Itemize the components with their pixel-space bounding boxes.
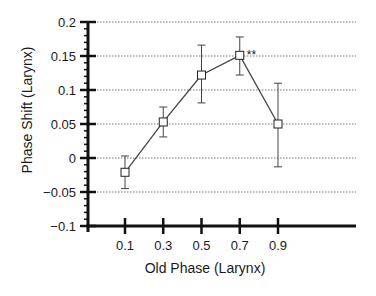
significance-annotation: **	[247, 48, 257, 62]
x-tick-label: 0.7	[231, 238, 249, 253]
x-tick-label: 0.9	[269, 238, 287, 253]
y-tick-label: 0.05	[51, 117, 76, 132]
y-tick-label: −0.1	[50, 219, 76, 234]
x-axis-ticks: 0.10.30.50.70.9	[116, 218, 287, 253]
gridlines	[88, 22, 356, 192]
y-tick-label: 0.2	[58, 15, 76, 30]
x-tick-label: 0.5	[192, 238, 210, 253]
data-point-marker	[198, 71, 206, 79]
y-tick-label: 0.15	[51, 49, 76, 64]
y-axis-label: Phase Shift (Larynx)	[19, 47, 35, 174]
y-tick-label: 0.1	[58, 83, 76, 98]
chart-container: 0.20.150.10.050−0.05−0.1 0.10.30.50.70.9…	[0, 0, 376, 296]
y-tick-label: −0.05	[43, 185, 76, 200]
data-point-marker	[159, 118, 167, 126]
y-tick-label: 0	[69, 151, 76, 166]
data-point-marker	[274, 120, 282, 128]
x-axis-label: Old Phase (Larynx)	[145, 260, 266, 276]
phase-shift-line-chart: 0.20.150.10.050−0.05−0.1 0.10.30.50.70.9…	[0, 0, 376, 296]
x-tick-label: 0.1	[116, 238, 134, 253]
axes	[87, 22, 357, 232]
data-point-marker	[236, 51, 244, 59]
x-tick-label: 0.3	[154, 238, 172, 253]
data-series: **	[121, 37, 282, 189]
data-point-marker	[121, 168, 129, 176]
